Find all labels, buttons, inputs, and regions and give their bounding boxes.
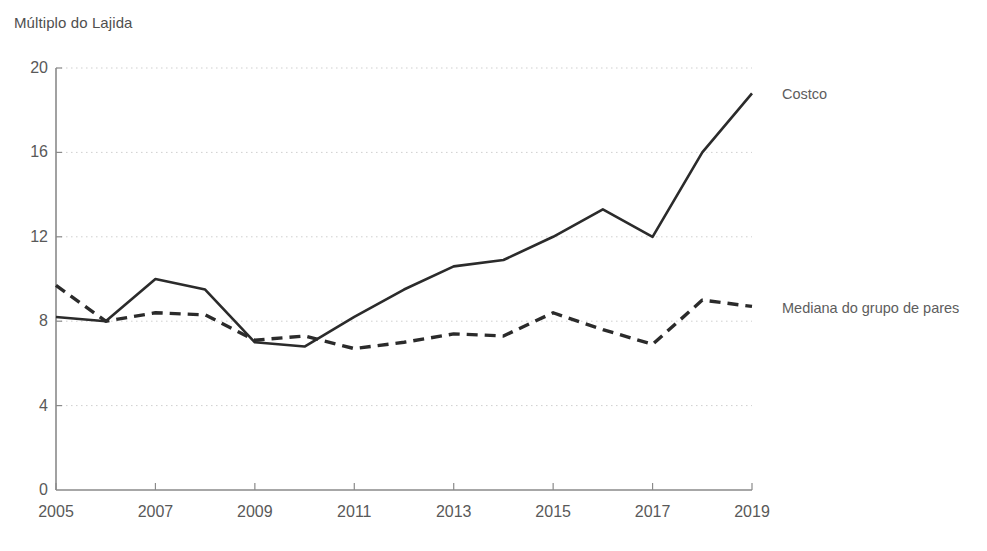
plot-svg [56, 68, 752, 490]
y-tick-label: 16 [8, 143, 48, 161]
x-tick-label: 2005 [38, 503, 74, 521]
x-axis-ticks [56, 483, 752, 490]
chart-figure: Múltiplo do Lajida 048121620 Costco Medi… [0, 0, 987, 551]
series-line-peers [56, 285, 752, 348]
y-tick-label: 4 [8, 397, 48, 415]
x-tick-label: 2009 [237, 503, 273, 521]
x-tick-label: 2017 [635, 503, 671, 521]
plot-area [56, 68, 752, 490]
y-tick-label: 12 [8, 228, 48, 246]
x-tick-label: 2019 [734, 503, 770, 521]
series-label-costco: Costco [782, 86, 827, 102]
x-tick-label: 2007 [138, 503, 174, 521]
gridlines [56, 68, 752, 406]
x-tick-label: 2015 [535, 503, 571, 521]
y-tick-label: 20 [8, 59, 48, 77]
y-tick-label: 8 [8, 312, 48, 330]
data-series [56, 93, 752, 348]
y-tick-label: 0 [8, 481, 48, 499]
x-tick-label: 2011 [337, 503, 371, 521]
x-tick-label: 2013 [436, 503, 472, 521]
series-label-peers: Mediana do grupo de pares [782, 300, 959, 316]
series-line-costco [56, 93, 752, 346]
y-axis-labels: 048121620 [0, 0, 48, 551]
